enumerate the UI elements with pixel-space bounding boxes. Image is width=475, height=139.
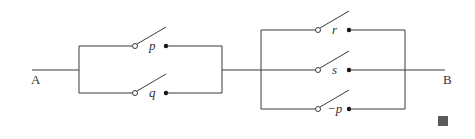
switch-label-r: r (332, 22, 338, 37)
open-terminal (316, 68, 321, 73)
open-terminal (316, 28, 321, 33)
node-label-b: B (443, 72, 452, 87)
left-parallel-block: p q (79, 27, 222, 100)
switch-p: p (79, 27, 222, 53)
open-terminal (133, 91, 138, 96)
switch-not-p: −p (261, 90, 405, 116)
open-terminal (133, 44, 138, 49)
switch-s: s (261, 51, 405, 77)
switch-r: r (261, 11, 405, 37)
switch-label-not-p: −p (327, 101, 343, 116)
circuit-diagram: A p q (0, 0, 475, 139)
end-marker-square (438, 116, 448, 126)
right-parallel-block: r s −p (261, 11, 405, 116)
node-label-a: A (31, 72, 41, 87)
switch-label-p: p (148, 38, 156, 53)
open-terminal (316, 107, 321, 112)
switch-label-q: q (149, 85, 156, 100)
switch-label-s: s (332, 62, 337, 77)
switch-q: q (79, 74, 222, 100)
